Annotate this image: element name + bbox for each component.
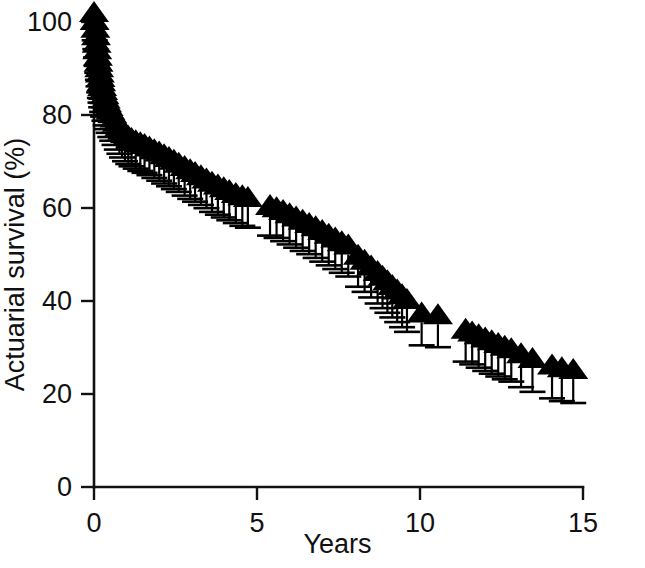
x-tick-label: 5	[249, 508, 264, 538]
y-tick-label: 0	[57, 472, 72, 502]
y-axis-ticks: 020406080100	[27, 7, 94, 502]
y-tick-label: 40	[42, 286, 72, 316]
data-series-layer	[79, 1, 588, 403]
x-tick-label: 10	[405, 508, 435, 538]
y-axis-title: Actuarial survival (%)	[0, 138, 30, 392]
survival-curve-chart: 020406080100 051015 Actuarial survival (…	[0, 0, 645, 568]
y-tick-label: 20	[42, 379, 72, 409]
y-tick-label: 80	[42, 100, 72, 130]
y-tick-label: 100	[27, 7, 72, 37]
x-tick-label: 0	[86, 508, 101, 538]
figure-container: 020406080100 051015 Actuarial survival (…	[0, 0, 645, 568]
x-axis-title: Years	[303, 529, 371, 559]
y-tick-label: 60	[42, 193, 72, 223]
x-tick-label: 15	[568, 508, 598, 538]
